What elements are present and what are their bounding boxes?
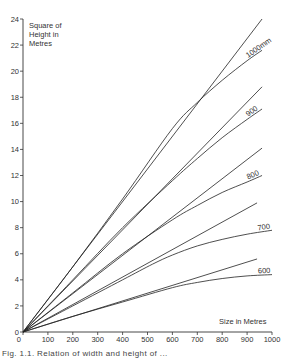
x-tick-label: 700 (191, 335, 204, 344)
y-tick-label: 2 (15, 302, 19, 311)
series-lines (23, 19, 272, 332)
x-tick-label: 800 (216, 335, 229, 344)
series-label: 600 (258, 266, 271, 276)
y-tick-label: 24 (11, 15, 19, 24)
y-tick-label: 6 (15, 249, 19, 258)
x-axis-title: Size in Metres (219, 317, 267, 326)
y-tick-label: 8 (15, 223, 19, 232)
y-tick-label: 22 (11, 41, 19, 50)
series-labels: 1000mm900800700600 (244, 36, 273, 276)
series-label: 800 (245, 168, 260, 181)
y-ticks: 024681012141618202224 (11, 15, 23, 337)
x-tick-label: 600 (166, 335, 179, 344)
x-tick-label: 200 (67, 335, 80, 344)
x-ticks: 10020030040050060070080090010000 (17, 332, 281, 344)
y-tick-label: 4 (15, 275, 19, 284)
x-tick-label: 400 (116, 335, 129, 344)
x-tick-label: 300 (91, 335, 104, 344)
y-tick-label: 20 (11, 67, 19, 76)
series-line (23, 109, 262, 332)
y-axis-title-line-2: Height in (29, 30, 59, 39)
series-line (23, 87, 262, 332)
series-label: 1000mm (244, 36, 273, 60)
x-tick-label: 500 (141, 335, 154, 344)
series-line (23, 176, 262, 333)
y-tick-label: 14 (11, 145, 19, 154)
y-tick-label: 18 (11, 93, 19, 102)
series-line (23, 203, 257, 332)
axes (23, 19, 272, 332)
y-axis-title-line-3: Metres (29, 39, 52, 48)
x-tick-label: 100 (42, 335, 55, 344)
figure-caption: Fig. 1.1. Relation of width and height o… (2, 349, 168, 358)
x-tick-label: 1000 (264, 335, 281, 344)
y-axis-title-line-1: Square of (29, 21, 62, 30)
y-tick-label: 10 (11, 197, 19, 206)
series-label: 900 (244, 104, 259, 119)
y-tick-label: 12 (11, 171, 19, 180)
x-origin-label: 0 (17, 335, 21, 344)
chart: 024681012141618202224 100200300400500600… (0, 0, 297, 358)
series-label: 700 (257, 222, 271, 233)
y-tick-label: 16 (11, 119, 19, 128)
series-line (23, 50, 262, 332)
x-tick-label: 900 (241, 335, 254, 344)
